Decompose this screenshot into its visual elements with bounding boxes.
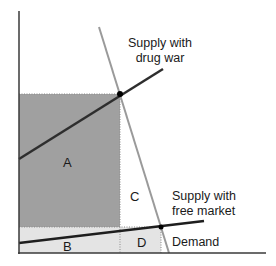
supply-drug-war-label-line1: Supply with	[124, 36, 196, 51]
supply-free-market-label-line1: Supply with	[172, 189, 236, 204]
region-d-label: D	[137, 235, 146, 250]
region-c-label: C	[130, 189, 139, 204]
supply-free-market-label-line2: free market	[172, 204, 236, 219]
region-a-label: A	[63, 155, 72, 170]
supply-free-market-label: Supply with free market	[172, 189, 236, 219]
region-b-label: B	[63, 239, 72, 254]
equilibrium-free-market-point	[159, 225, 164, 230]
supply-drug-war-label: Supply with drug war	[124, 36, 196, 66]
equilibrium-drug-war-point	[117, 91, 123, 97]
supply-drug-war-label-line2: drug war	[124, 51, 196, 66]
demand-label: Demand	[172, 235, 219, 250]
